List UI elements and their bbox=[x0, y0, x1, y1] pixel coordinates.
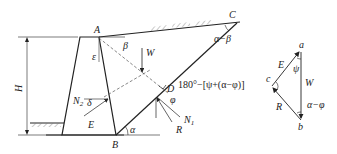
angle-alpha-label: α bbox=[130, 124, 136, 135]
angle-epsilon-label: ε bbox=[92, 51, 96, 62]
side-R-label: R bbox=[275, 101, 282, 112]
force-N2-label: N2 bbox=[72, 95, 84, 108]
retaining-wall-diagram: H A B C D β ε δ α φ α−β W E R N1 bbox=[0, 0, 337, 154]
height-label: H bbox=[13, 84, 24, 93]
angle-c-expression-label: 180°−[ψ+(α−φ)] bbox=[178, 79, 245, 91]
vertex-b-label: b bbox=[298, 121, 303, 132]
point-A-label: A bbox=[93, 24, 101, 35]
force-triangle: a b c E W R ψ α−φ 180°−[ψ+(α−φ)] bbox=[178, 39, 325, 132]
force-E-label: E bbox=[87, 119, 94, 130]
angle-beta-label: β bbox=[122, 40, 128, 51]
left-ground bbox=[30, 123, 160, 135]
point-D-label: D bbox=[166, 83, 175, 94]
side-W-label: W bbox=[305, 77, 315, 88]
point-B-label: B bbox=[112, 139, 118, 150]
vertex-a-label: a bbox=[299, 39, 304, 50]
point-C-label: C bbox=[229, 9, 236, 20]
vertex-c-label: c bbox=[266, 73, 271, 84]
angle-phi-label: φ bbox=[170, 94, 176, 105]
angle-psi-label: ψ bbox=[293, 63, 300, 74]
height-dimension: H bbox=[13, 37, 78, 135]
force-W-label: W bbox=[146, 47, 156, 58]
angle-delta-label: δ bbox=[87, 97, 92, 108]
angle-alpha-minus-phi-label: α−φ bbox=[307, 99, 325, 110]
side-E-label: E bbox=[277, 59, 284, 70]
force-R-label: R bbox=[175, 124, 182, 135]
force-N1-label: N1 bbox=[183, 114, 194, 127]
angle-alpha-minus-beta-label: α−β bbox=[214, 33, 231, 44]
